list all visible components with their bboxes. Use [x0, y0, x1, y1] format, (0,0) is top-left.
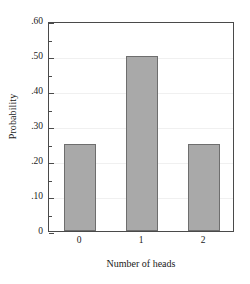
- y-axis-major-tick: [49, 93, 54, 94]
- x-axis-tick-labels: 012: [48, 236, 234, 252]
- bar: [188, 144, 220, 232]
- y-axis-major-tick: [49, 198, 54, 199]
- y-axis-minor-tick: [49, 76, 52, 77]
- y-axis-tick-label: .20: [31, 157, 43, 167]
- y-axis-tick-labels: 0.10.20.30.40.50.60: [0, 22, 46, 232]
- y-axis-major-tick: [49, 128, 54, 129]
- y-axis-major-tick: [49, 163, 54, 164]
- y-axis-tick-label: .60: [31, 17, 43, 27]
- x-axis-title: Number of heads: [48, 258, 234, 269]
- bar: [126, 56, 158, 231]
- y-axis-minor-tick: [49, 181, 52, 182]
- y-axis-tick-label: 0: [38, 227, 43, 237]
- plot-area: [48, 22, 234, 232]
- y-axis-tick-label: .40: [31, 87, 43, 97]
- y-axis-minor-tick: [49, 111, 52, 112]
- y-axis-tick-label: .30: [31, 122, 43, 132]
- y-axis-major-tick: [49, 233, 54, 234]
- y-axis-tick-label: .10: [31, 192, 43, 202]
- bar: [64, 144, 96, 232]
- y-axis-tick-label: .50: [31, 52, 43, 62]
- y-axis-major-tick: [49, 58, 54, 59]
- bar-chart-figure: Probability 0.10.20.30.40.50.60 012 Numb…: [0, 0, 250, 284]
- y-axis-major-tick: [49, 23, 54, 24]
- y-axis-minor-tick: [49, 216, 52, 217]
- x-axis-tick-label: 1: [139, 236, 144, 246]
- x-axis-tick-label: 2: [201, 236, 206, 246]
- y-axis-minor-tick: [49, 41, 52, 42]
- x-axis-tick-label: 0: [77, 236, 82, 246]
- y-axis-minor-tick: [49, 146, 52, 147]
